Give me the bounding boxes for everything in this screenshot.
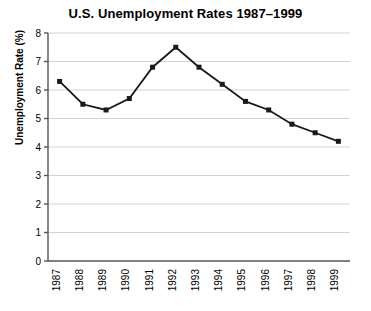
data-point-marker [57, 79, 62, 84]
y-tick-label: 7 [35, 56, 41, 67]
x-tick-label: 1997 [283, 269, 294, 292]
x-tick-label: 1994 [213, 269, 224, 292]
x-tick-label: 1993 [190, 269, 201, 292]
x-tick-label: 1991 [144, 269, 155, 292]
chart-figure: U.S. Unemployment Rates 1987–1999 Unempl… [0, 0, 371, 311]
data-point-marker [266, 107, 271, 112]
gridlines-group [48, 33, 350, 233]
data-point-marker [127, 96, 132, 101]
y-tick-label: 8 [35, 28, 41, 39]
data-point-marker [313, 130, 318, 135]
x-tick-label: 1989 [97, 269, 108, 292]
x-tick-label: 1996 [260, 269, 271, 292]
data-point-marker [80, 102, 85, 107]
y-axis-tick-labels: 012345678 [35, 28, 48, 267]
x-tick-label: 1999 [329, 269, 340, 292]
data-point-markers [57, 45, 341, 144]
y-tick-label: 5 [35, 113, 41, 124]
data-point-marker [336, 139, 341, 144]
x-axis-tick-labels: 1987198819891990199119921993199419951996… [51, 269, 341, 292]
y-tick-label: 6 [35, 85, 41, 96]
y-tick-label: 2 [35, 199, 41, 210]
x-tick-label: 1998 [306, 269, 317, 292]
x-tick-label: 1990 [120, 269, 131, 292]
x-tick-label: 1992 [167, 269, 178, 292]
data-point-marker [173, 45, 178, 50]
x-tick-label: 1988 [74, 269, 85, 292]
y-tick-label: 4 [35, 142, 41, 153]
x-tick-label: 1987 [51, 269, 62, 292]
y-tick-label: 1 [35, 227, 41, 238]
line-chart-plot: 012345678 198719881989199019911992199319… [0, 0, 371, 311]
data-point-marker [243, 99, 248, 104]
data-point-marker [104, 107, 109, 112]
y-tick-label: 0 [35, 256, 41, 267]
data-point-marker [150, 65, 155, 70]
y-tick-label: 3 [35, 170, 41, 181]
data-point-marker [289, 122, 294, 127]
x-tick-label: 1995 [236, 269, 247, 292]
data-point-marker [220, 82, 225, 87]
data-point-marker [197, 65, 202, 70]
